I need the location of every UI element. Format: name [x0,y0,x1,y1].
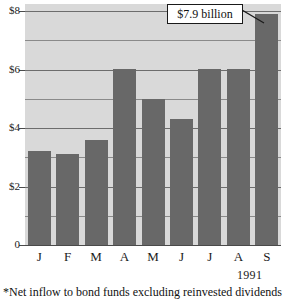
chart-footnote: *Net inflow to bond funds excluding rein… [3,285,282,300]
x-axis-label-0: J [25,249,53,265]
x-axis-baseline [25,245,281,246]
bar-m-2 [85,140,108,245]
bar-s-8 [255,14,278,245]
year-label: 1991 [237,268,262,283]
x-axis-label-5: J [167,249,195,265]
x-axis-labels-group: JFMAMJJAS [25,249,281,267]
x-axis-label-6: J [196,249,224,265]
y-axis-tick-label: $2 [0,181,20,192]
bar-a-3 [113,69,136,245]
x-axis-label-8: S [253,249,281,265]
bar-f-1 [56,154,79,245]
bar-chart-figure: 0$2$4$6$8 JFMAMJJAS 1991 $7.9 billion *N… [0,0,284,303]
value-callout-box: $7.9 billion [167,4,243,24]
y-axis-tick-label: $4 [0,122,20,133]
bar-j-6 [198,69,221,245]
bar-a-7 [227,69,250,245]
x-axis-label-3: A [110,249,138,265]
x-axis-label-2: M [82,249,110,265]
y-axis-tick-label: $8 [0,5,20,16]
x-axis-label-7: A [224,249,252,265]
y-axis-tick-label: 0 [0,239,20,250]
bar-m-4 [142,99,165,245]
x-axis-label-1: F [53,249,81,265]
bar-j-0 [28,151,51,245]
x-axis-label-4: M [139,249,167,265]
y-axis-tick-label: $6 [0,64,20,75]
bar-j-5 [170,119,193,245]
bars-group [25,4,281,246]
